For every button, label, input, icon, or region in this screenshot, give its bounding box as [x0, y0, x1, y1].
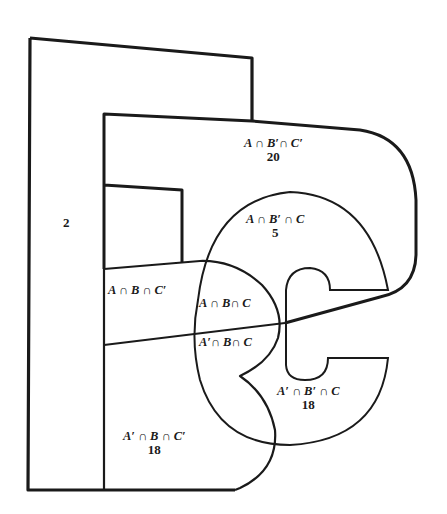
- region-outside: 2: [63, 216, 70, 229]
- region-count: 18: [123, 443, 186, 456]
- region-count: 5: [246, 226, 304, 239]
- region-a-b-c: A ∩ B∩ C: [199, 297, 251, 310]
- region-nota-b-c: A′∩ B∩ C: [199, 336, 252, 349]
- region-label: A′ ∩ B′ ∩ C: [277, 384, 340, 398]
- region-label: A′ ∩ B ∩ C′: [123, 429, 186, 443]
- region-label: A ∩ B ∩ C′: [108, 283, 166, 297]
- region-label: A ∩ B∩ C: [199, 296, 251, 310]
- region-count: 2: [63, 216, 70, 229]
- region-a-b-notc: A ∩ B ∩ C′: [108, 284, 166, 297]
- region-label: A ∩ B′∩ C′: [244, 136, 303, 150]
- region-count: 18: [277, 398, 340, 411]
- universal-set-outline: [28, 38, 252, 490]
- venn-diagram-shapes: [0, 0, 447, 514]
- region-a-notb-c: A ∩ B′ ∩ C 5: [246, 213, 304, 239]
- region-nota-b-notc: A′ ∩ B ∩ C′ 18: [123, 430, 186, 456]
- region-label: A ∩ B′ ∩ C: [246, 212, 304, 226]
- region-label: A′∩ B∩ C: [199, 335, 252, 349]
- region-count: 20: [244, 150, 303, 163]
- region-a-notb-notc: A ∩ B′∩ C′ 20: [244, 137, 303, 163]
- region-nota-notb-c: A′ ∩ B′ ∩ C 18: [277, 385, 340, 411]
